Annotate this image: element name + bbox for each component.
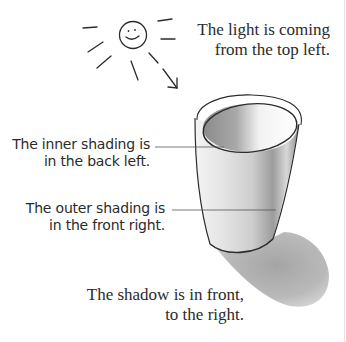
light-annotation: The light is coming from the top left. [180, 20, 330, 60]
diagram-canvas: The light is coming from the top left. T… [0, 0, 346, 342]
inner-shading-annotation: The inner shading is in the back left. [10, 136, 150, 170]
outer-shading-line2: in the front right. [20, 217, 165, 234]
outer-shading-annotation: The outer shading is in the front right. [20, 200, 165, 234]
inner-shading-line1: The inner shading is [10, 136, 150, 153]
shadow-annotation: The shadow is in front, to the right. [60, 285, 244, 325]
light-annotation-line1: The light is coming [180, 20, 330, 40]
cup-opening [203, 104, 297, 152]
shadow-annotation-line1: The shadow is in front, [60, 285, 244, 305]
light-annotation-line2: from the top left. [180, 40, 330, 60]
right-border [344, 0, 345, 342]
shadow-annotation-line2: to the right. [60, 305, 244, 325]
outer-shading-line1: The outer shading is [20, 200, 165, 217]
inner-shading-line2: in the back left. [10, 153, 150, 170]
light-direction-arrow-icon [163, 69, 177, 88]
sun-icon [83, 19, 175, 80]
